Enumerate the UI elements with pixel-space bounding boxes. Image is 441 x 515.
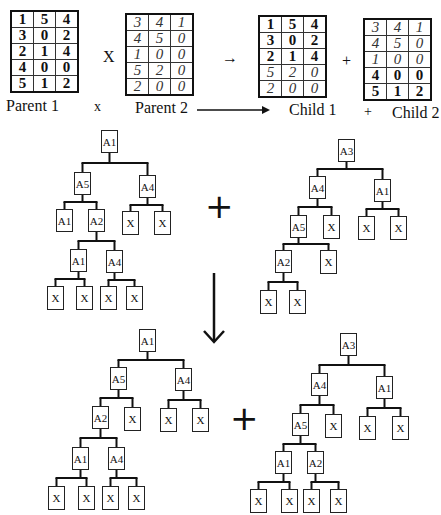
tree-leaf-node: X — [303, 489, 320, 513]
tree-node-a2: A2 — [307, 451, 324, 474]
tree-leaf-node: X — [359, 416, 376, 440]
tree-node-a1: A1 — [376, 376, 393, 399]
tree-node-a4: A4 — [311, 373, 328, 396]
tree-leaf-node: X — [281, 489, 298, 513]
tree-node-a1: A1 — [275, 451, 292, 474]
tree-node-a5: A5 — [292, 413, 309, 436]
tree-leaf-node: X — [392, 416, 409, 440]
tree-leaf-node: X — [325, 414, 342, 438]
tree-leaf-node: X — [250, 489, 267, 513]
tree-leaf-node: X — [330, 489, 347, 513]
tree-node-a3: A3 — [340, 333, 357, 356]
